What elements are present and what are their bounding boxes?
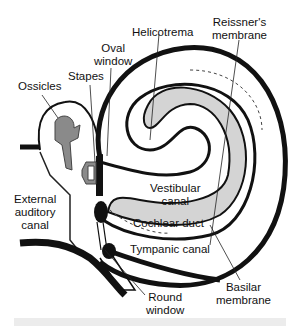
label-cochlear-duct: Cochlear duct	[133, 217, 204, 230]
label-vestibular-canal: Vestibular canal	[150, 182, 201, 208]
label-basilar-membrane: Basilar membrane	[216, 281, 271, 307]
stapes	[82, 162, 96, 184]
label-line: membrane	[216, 294, 271, 307]
bottom-bar	[14, 318, 286, 326]
label-line: canal	[150, 195, 201, 208]
label-oval-window: Oval window	[94, 42, 132, 68]
label-helicotrema: Helicotrema	[132, 26, 193, 39]
label-line: window	[94, 55, 132, 68]
label-external-auditory-canal: External auditory canal	[14, 193, 56, 232]
oval-window	[96, 154, 103, 196]
label-stapes: Stapes	[68, 70, 104, 83]
label-round-window: Round window	[146, 291, 184, 317]
round-window-blob	[94, 201, 108, 223]
label-line: External	[14, 193, 56, 206]
label-line: Basilar	[216, 281, 271, 294]
label-line: membrane	[212, 29, 267, 42]
label-reissners-membrane: Reissner's membrane	[212, 16, 267, 42]
label-ossicles: Ossicles	[18, 80, 61, 93]
label-line: Round	[146, 291, 184, 304]
label-line: auditory	[14, 206, 56, 219]
label-line: window	[146, 304, 184, 317]
label-tympanic-canal: Tympanic canal	[130, 243, 210, 256]
label-line: Reissner's	[212, 16, 267, 29]
label-line: Oval	[94, 42, 132, 55]
cochlea-diagram	[0, 0, 299, 329]
label-line: canal	[14, 219, 56, 232]
label-line: Vestibular	[150, 182, 201, 195]
ossicles	[55, 116, 80, 170]
